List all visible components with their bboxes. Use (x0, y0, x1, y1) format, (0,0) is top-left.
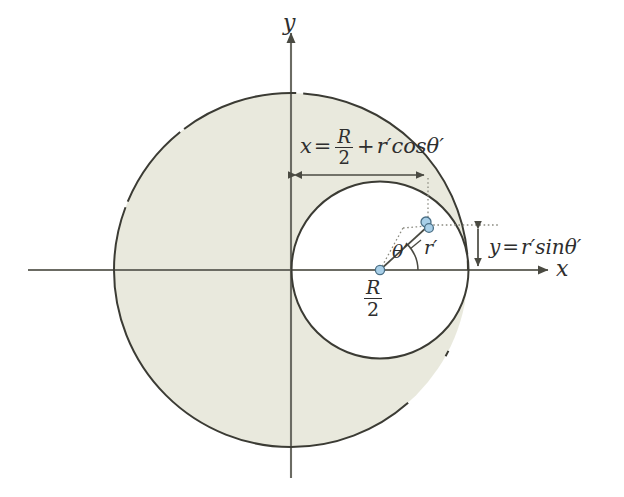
equation-y-term: r′sinθ′ (521, 235, 581, 259)
center-offset-numerator: R (364, 278, 382, 299)
radius-label: r′ (424, 238, 437, 257)
equation-x-term: r′cosθ′ (377, 134, 444, 158)
equation-y-label: y=r′sinθ′ (489, 237, 581, 257)
equation-y-equals: = (500, 235, 521, 259)
figure-canvas: x=R2+r′cosθ′ y=r′sinθ′ R2 θ′ r′ x y (0, 0, 624, 497)
x-axis-label: x (556, 258, 568, 280)
center-marker-dot (375, 265, 384, 274)
equation-x-lhs: x (300, 134, 312, 158)
center-offset-label: R2 (362, 278, 384, 319)
y-axis-label: y (283, 12, 295, 34)
equation-x-equals: = (312, 134, 334, 158)
angle-label: θ′ (392, 242, 408, 261)
equation-x-fraction: R2 (335, 128, 353, 167)
equation-x-label: x=R2+r′cosθ′ (300, 128, 444, 167)
point-dot-lower (425, 224, 434, 233)
equation-x-fraction-numerator: R (335, 128, 353, 148)
equation-x-fraction-denominator: 2 (335, 148, 353, 167)
center-offset-fraction: R2 (364, 278, 382, 319)
center-offset-denominator: 2 (364, 299, 382, 319)
equation-x-plus: + (355, 134, 377, 158)
equation-y-lhs: y (489, 235, 500, 259)
